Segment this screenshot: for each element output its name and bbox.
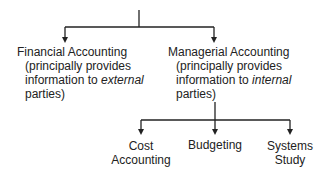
node-budgeting: Budgeting	[188, 138, 242, 152]
desc-text: information to	[25, 73, 101, 87]
node-desc-line: information to external	[17, 73, 144, 87]
node-label-line1: Budgeting	[188, 138, 242, 152]
node-label-line1: Systems	[267, 139, 313, 153]
node-desc-line: parties)	[17, 87, 144, 101]
arrowhead-managerial	[211, 37, 217, 43]
emphasis-internal: internal	[252, 73, 291, 87]
node-managerial-accounting: Managerial Accounting (principally provi…	[168, 45, 291, 101]
node-desc-line: (principally provides	[168, 59, 291, 73]
node-title: Managerial Accounting	[168, 45, 291, 59]
desc-text: information to	[176, 73, 252, 87]
accounting-hierarchy-diagram: Financial Accounting (principally provid…	[0, 0, 329, 174]
arrowhead-budgeting	[212, 129, 218, 135]
arrowhead-systems	[287, 129, 293, 135]
node-label-line2: Accounting	[111, 153, 170, 167]
node-desc-line: parties)	[168, 87, 291, 101]
node-financial-accounting: Financial Accounting (principally provid…	[17, 45, 144, 101]
arrowhead-cost	[138, 129, 144, 135]
node-desc-line: information to internal	[168, 73, 291, 87]
emphasis-external: external	[101, 73, 144, 87]
node-systems-study: Systems Study	[267, 139, 313, 167]
node-desc-line: (principally provides	[17, 59, 144, 73]
arrowhead-financial	[62, 37, 68, 43]
node-label-line1: Cost	[111, 139, 170, 153]
node-title: Financial Accounting	[17, 45, 144, 59]
node-label-line2: Study	[267, 153, 313, 167]
node-cost-accounting: Cost Accounting	[111, 139, 170, 167]
